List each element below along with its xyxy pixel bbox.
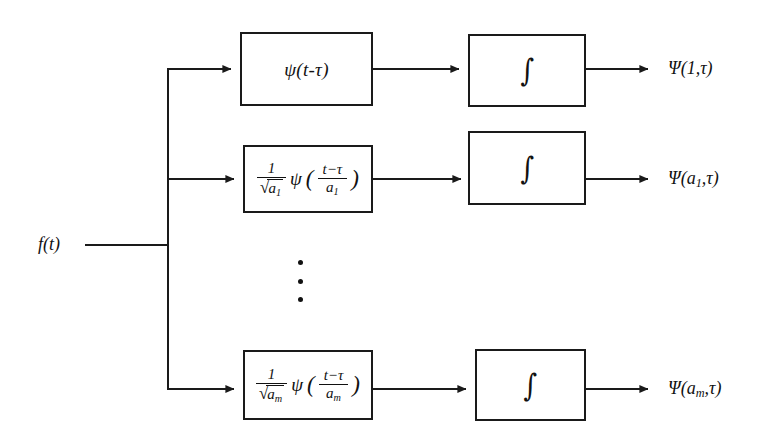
- amplitude-denominator-row-3: √am: [256, 385, 287, 403]
- wavelet-box-row-3[interactable]: 1 √am ψ( t−τ am ): [243, 350, 373, 420]
- argument-numerator-row-3: t−τ: [319, 368, 349, 383]
- argument-scale-row-2: a: [326, 179, 334, 195]
- output-psi-row-2: Ψ: [668, 168, 681, 188]
- close-paren-row-2: ): [351, 167, 359, 190]
- sqrt-base-row-3: a: [267, 386, 275, 402]
- psi-operator-row-3: ψ: [291, 375, 303, 394]
- input-signal-text: f(t): [38, 234, 60, 254]
- output-psi-row-3: Ψ: [668, 378, 681, 398]
- ellipsis-dot: [298, 260, 303, 265]
- ellipsis-dot: [298, 297, 303, 302]
- sqrt-subscript-row-3: m: [275, 393, 282, 404]
- wiring-layer: [0, 0, 776, 444]
- sqrt-group-row-3: √am: [259, 385, 284, 403]
- sqrt-body-row-3: am: [266, 385, 284, 403]
- diagram-canvas: f(t) ψ(t-τ) ∫ Ψ(1,τ) 1 √a1 ψ( t−τ: [0, 0, 776, 444]
- output-scale-row-2: a: [687, 168, 696, 188]
- integral-box-row-3[interactable]: ∫: [475, 349, 586, 421]
- amplitude-fraction-row-3: 1 √am: [256, 367, 287, 404]
- vertical-ellipsis-icon: [297, 260, 303, 302]
- sqrt-body-row-2: a1: [267, 179, 283, 197]
- output-close-row-2: ): [713, 168, 719, 188]
- integral-box-row-2[interactable]: ∫: [468, 131, 586, 205]
- wavelet-formula-row-2: 1 √a1 ψ( t−τ a1 ): [257, 161, 359, 198]
- wavelet-box-row-1[interactable]: ψ(t-τ): [240, 32, 373, 106]
- close-paren-row-3: ): [352, 373, 360, 396]
- output-close-row-3: ): [715, 378, 721, 398]
- output-scale-row-3: a: [687, 378, 696, 398]
- sqrt-subscript-row-2: 1: [276, 187, 281, 198]
- output-label-row-3: Ψ(am,τ): [668, 378, 721, 399]
- integral-icon: ∫: [520, 55, 534, 86]
- argument-fraction-row-3: t−τ am: [319, 368, 349, 402]
- output-scale-sub-row-3: m: [696, 386, 705, 400]
- sqrt-group-row-2: √a1: [260, 179, 283, 197]
- argument-denominator-row-3: am: [321, 386, 346, 401]
- amplitude-numerator-row-3: 1: [265, 367, 279, 382]
- output-psi-row-1: Ψ: [668, 58, 681, 78]
- argument-denominator-row-2: a1: [321, 180, 344, 195]
- integral-box-row-1[interactable]: ∫: [468, 34, 586, 107]
- output-label-row-1: Ψ(1,τ): [668, 58, 713, 79]
- amplitude-denominator-row-2: √a1: [257, 179, 286, 197]
- input-signal-label: f(t): [38, 234, 60, 255]
- output-label-row-2: Ψ(a1,τ): [668, 168, 719, 189]
- wavelet-formula-row-1: ψ(t-τ): [284, 60, 329, 79]
- argument-scale-row-3: a: [326, 385, 334, 401]
- sqrt-base-row-2: a: [268, 180, 276, 196]
- output-close-row-1: ): [707, 58, 713, 78]
- psi-operator-row-2: ψ: [290, 169, 302, 188]
- argument-fraction-row-2: t−τ a1: [318, 162, 348, 196]
- ellipsis-dot: [298, 279, 303, 284]
- argument-subscript-row-2: 1: [334, 186, 339, 197]
- argument-subscript-row-3: m: [334, 392, 341, 403]
- amplitude-fraction-row-2: 1 √a1: [257, 161, 286, 198]
- output-scale-row-1: 1: [687, 58, 696, 78]
- open-paren-row-2: (: [306, 167, 314, 190]
- amplitude-numerator-row-2: 1: [265, 161, 279, 176]
- wavelet-formula-row-3: 1 √am ψ( t−τ am ): [256, 367, 360, 404]
- integral-icon: ∫: [520, 153, 534, 184]
- integral-icon: ∫: [524, 370, 538, 401]
- argument-numerator-row-2: t−τ: [318, 162, 348, 177]
- wavelet-box-row-2[interactable]: 1 √a1 ψ( t−τ a1 ): [243, 145, 373, 213]
- open-paren-row-3: (: [307, 373, 315, 396]
